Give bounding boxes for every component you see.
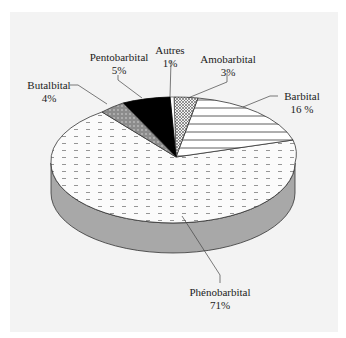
label-pentobarbital-pct: 5% xyxy=(84,64,154,77)
label-amobarbital-pct: 3% xyxy=(195,66,261,79)
label-butalbital: Butalbital 4% xyxy=(24,79,74,105)
label-amobarbital: Amobarbital 3% xyxy=(195,53,261,79)
label-phenobarbital-pct: 71% xyxy=(183,299,257,312)
label-pentobarbital: Pentobarbital 5% xyxy=(84,51,154,77)
label-pentobarbital-name: Pentobarbital xyxy=(84,51,154,64)
label-barbital-pct: 16 % xyxy=(277,103,327,116)
label-butalbital-pct: 4% xyxy=(24,92,74,105)
label-barbital-name: Barbital xyxy=(277,90,327,103)
label-phenobarbital-name: Phénobarbital xyxy=(183,286,257,299)
label-amobarbital-name: Amobarbital xyxy=(195,53,261,66)
label-autres-name: Autres xyxy=(150,44,190,57)
label-autres: Autres 1% xyxy=(150,44,190,70)
label-phenobarbital: Phénobarbital 71% xyxy=(183,286,257,312)
label-butalbital-name: Butalbital xyxy=(24,79,74,92)
label-barbital: Barbital 16 % xyxy=(277,90,327,116)
label-autres-pct: 1% xyxy=(150,57,190,70)
